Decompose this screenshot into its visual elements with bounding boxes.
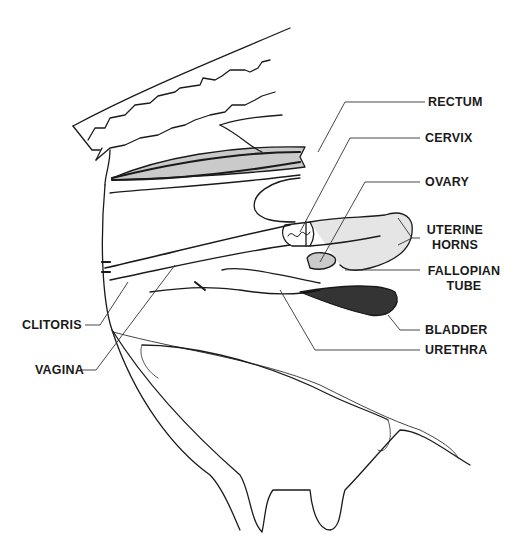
body-left-outline <box>102 185 240 530</box>
udder-top <box>113 332 458 458</box>
spine-upper <box>88 60 270 140</box>
label-uterine-horns-line1: UTERINE <box>424 223 486 238</box>
bladder <box>300 286 397 315</box>
label-urethra: URETHRA <box>425 343 488 358</box>
label-fallopian-tube: FALLOPIAN TUBE <box>424 264 504 294</box>
leader-rectum <box>318 102 425 152</box>
label-ovary: OVARY <box>425 175 469 190</box>
label-clitoris: CLITORIS <box>22 318 82 333</box>
label-cervix: CERVIX <box>425 131 473 146</box>
ovary <box>307 253 335 269</box>
label-fallopian-tube-line2: TUBE <box>424 279 504 294</box>
leader-bladder <box>388 315 420 330</box>
label-bladder: BLADDER <box>425 323 488 338</box>
label-uterine-horns-line2: HORNS <box>424 238 486 253</box>
leader-vagina <box>80 265 175 370</box>
back-outline <box>73 28 290 126</box>
vagina-lower <box>110 245 290 280</box>
label-rectum: RECTUM <box>428 95 483 110</box>
label-uterine-horns: UTERINE HORNS <box>424 223 486 253</box>
label-vagina: VAGINA <box>35 363 84 378</box>
diagram-canvas: RECTUM CERVIX OVARY UTERINE HORNS FALLOP… <box>0 0 524 550</box>
label-fallopian-tube-line1: FALLOPIAN <box>424 264 504 279</box>
